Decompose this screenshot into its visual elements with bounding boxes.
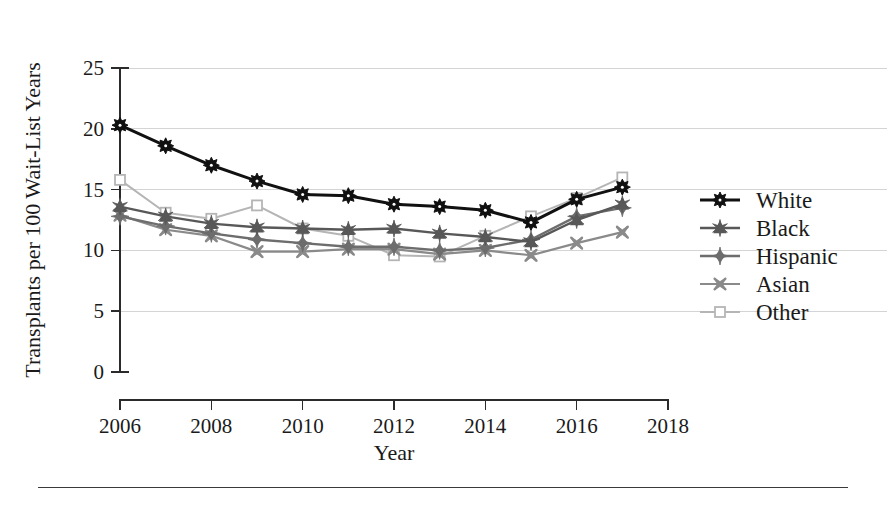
data-point-marker — [158, 138, 174, 154]
figure-root: 0510152025 2006200820102012201420162018 … — [0, 0, 887, 507]
legend-item-hispanic[interactable]: Hispanic — [700, 244, 838, 269]
y-tick-label-10: 10 — [83, 238, 104, 262]
legend-item-other[interactable]: Other — [700, 300, 809, 325]
x-tick-label-2018: 2018 — [647, 414, 689, 438]
data-point-marker — [711, 247, 729, 265]
data-point-marker — [614, 179, 630, 195]
y-tick-label-25: 25 — [83, 56, 104, 80]
y-tick-label-0: 0 — [94, 360, 105, 384]
data-point-marker — [715, 307, 725, 317]
series-asian — [108, 203, 635, 267]
data-point-marker — [203, 157, 219, 173]
series-line-white — [120, 125, 622, 222]
legend-label-text: Hispanic — [756, 244, 838, 269]
x-tick-label-2006: 2006 — [99, 414, 141, 438]
legend-label-text: White — [756, 188, 812, 213]
x-tick-label-2014: 2014 — [464, 414, 507, 438]
data-point-marker — [477, 202, 493, 218]
x-tick-label-2010: 2010 — [282, 414, 324, 438]
data-point-marker — [565, 231, 589, 255]
data-point-marker — [523, 214, 539, 230]
data-point-marker — [252, 200, 262, 210]
legend-item-white[interactable]: White — [700, 188, 812, 213]
y-tick-label-15: 15 — [83, 178, 104, 202]
data-point-marker — [712, 192, 728, 208]
y-axis-title-text: Transplants per 100 Wait-List Years — [20, 62, 45, 377]
data-point-marker — [339, 238, 357, 256]
data-point-marker — [249, 173, 265, 189]
y-tick-label-20: 20 — [83, 117, 104, 141]
x-tick-label-2012: 2012 — [373, 414, 415, 438]
data-point-marker — [115, 175, 125, 185]
legend-item-black[interactable]: Black — [700, 216, 810, 241]
data-point-marker — [295, 186, 311, 202]
data-series-group — [108, 117, 635, 267]
series-black — [113, 196, 630, 251]
data-point-marker — [112, 117, 128, 133]
legend-label-text: Asian — [756, 272, 810, 297]
data-point-marker — [340, 188, 356, 204]
x-tick-label-2008: 2008 — [190, 414, 232, 438]
series-white — [112, 117, 630, 230]
footer-divider — [38, 487, 848, 488]
x-axis-ticks: 2006200820102012201420162018 — [99, 400, 689, 438]
data-point-marker — [386, 196, 402, 212]
data-point-marker — [615, 196, 630, 213]
y-tick-label-5: 5 — [94, 299, 105, 323]
x-tick-label-2016: 2016 — [556, 414, 598, 438]
data-point-marker — [610, 220, 634, 244]
y-axis-title: Transplants per 100 Wait-List Years — [20, 62, 45, 377]
x-axis-title-text: Year — [374, 440, 415, 465]
data-point-marker — [569, 191, 585, 207]
legend-label-text: Other — [756, 300, 809, 325]
chart-legend: WhiteBlackHispanicAsianOther — [700, 188, 838, 325]
data-point-marker — [432, 199, 448, 215]
legend-item-asian[interactable]: Asian — [700, 272, 810, 297]
legend-label-text: Black — [756, 216, 810, 241]
line-chart: 0510152025 2006200820102012201420162018 … — [0, 0, 887, 507]
x-axis-title: Year — [374, 440, 415, 465]
